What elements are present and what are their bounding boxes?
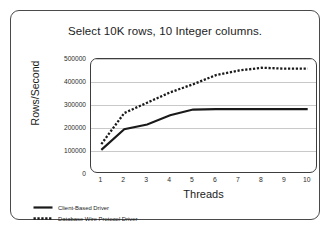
y-axis-ticks: 0100000200000300000400000500000 bbox=[38, 58, 86, 173]
x-axis-tick-label: 5 bbox=[182, 176, 202, 183]
legend-label: Client-Based Driver bbox=[58, 205, 109, 211]
plot-area bbox=[90, 58, 317, 173]
legend-swatch-dotted bbox=[33, 214, 53, 223]
legend-item: Database Wire Protocol Driver bbox=[33, 214, 263, 223]
x-axis-tick-label: 3 bbox=[136, 176, 156, 183]
x-axis-tick-label: 2 bbox=[113, 176, 133, 183]
series-dotted bbox=[101, 68, 307, 144]
x-axis-tick-label: 8 bbox=[251, 176, 271, 183]
legend-label: Database Wire Protocol Driver bbox=[58, 216, 138, 222]
x-axis-label: Threads bbox=[90, 188, 317, 200]
x-axis-tick-label: 1 bbox=[90, 176, 110, 183]
chart-legend: Client-Based DriverDatabase Wire Protoco… bbox=[33, 203, 263, 225]
x-axis-ticks: 12345678910 bbox=[90, 176, 317, 188]
x-axis-tick-label: 4 bbox=[159, 176, 179, 183]
chart-card: Select 10K rows, 10 Integer columns. 010… bbox=[10, 10, 320, 220]
y-axis-tick-label: 200000 bbox=[40, 124, 86, 131]
series-lines bbox=[91, 59, 317, 173]
x-axis-tick-label: 7 bbox=[228, 176, 248, 183]
y-axis-tick-label: 400000 bbox=[40, 78, 86, 85]
y-axis-tick-label: 500000 bbox=[40, 55, 86, 62]
y-axis-tick-label: 100000 bbox=[40, 147, 86, 154]
x-axis-tick-label: 9 bbox=[274, 176, 294, 183]
x-axis-tick-label: 10 bbox=[297, 176, 317, 183]
chart-title: Select 10K rows, 10 Integer columns. bbox=[11, 25, 319, 37]
x-axis-tick-label: 6 bbox=[205, 176, 225, 183]
legend-swatch-solid bbox=[33, 203, 53, 212]
y-axis-tick-label: 0 bbox=[40, 170, 86, 177]
series-solid bbox=[101, 109, 307, 150]
y-axis-tick-label: 300000 bbox=[40, 101, 86, 108]
legend-item: Client-Based Driver bbox=[33, 203, 263, 212]
y-axis-label: Rows/Second bbox=[29, 43, 41, 143]
